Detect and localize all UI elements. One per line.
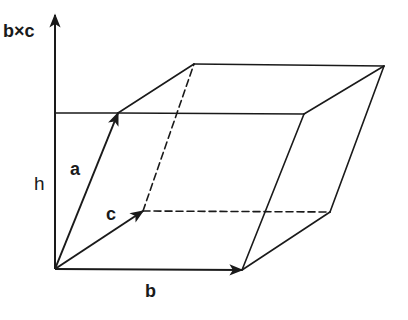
vector-b-arrow <box>55 269 242 270</box>
hidden-back-bottom-edge <box>143 211 330 212</box>
top-back-edge <box>194 64 384 66</box>
axis-label-bxc: b×c <box>3 21 35 41</box>
vector-label-a: a <box>70 159 81 179</box>
vector-label-b: b <box>145 281 156 301</box>
front-top-edge <box>118 113 304 114</box>
vector-c-arrow <box>55 211 143 269</box>
bottom-right-edge <box>242 212 330 270</box>
height-label-h: h <box>34 173 45 194</box>
hidden-back-left-edge <box>143 64 194 211</box>
back-right-vertical-edge <box>330 66 384 212</box>
front-right-edge <box>242 114 304 270</box>
top-left-edge <box>118 64 194 113</box>
top-right-edge <box>304 66 384 114</box>
vector-a-arrow <box>55 113 118 269</box>
parallelepiped-diagram: b×c a h c b <box>0 0 408 320</box>
vector-label-c: c <box>106 204 116 224</box>
